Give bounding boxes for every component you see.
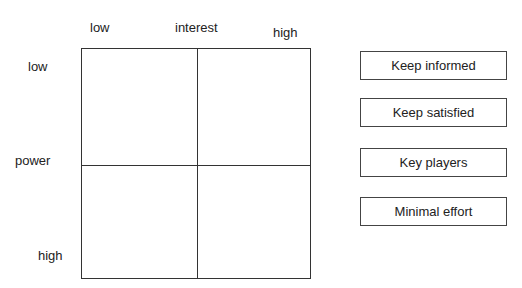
legend-minimal-effort: Minimal effort [360, 197, 507, 226]
grid-horizontal-divider [82, 165, 310, 166]
y-axis-high-label: high [38, 248, 63, 263]
legend-keep-satisfied: Keep satisfied [360, 98, 507, 127]
x-axis-high-label: high [273, 25, 298, 40]
power-interest-grid [81, 48, 311, 279]
x-axis-title: interest [175, 20, 218, 35]
y-axis-title: power [15, 153, 50, 168]
legend-key-players: Key players [360, 148, 507, 177]
y-axis-low-label: low [28, 59, 48, 74]
grid-vertical-divider [197, 49, 198, 278]
legend-keep-informed: Keep informed [360, 51, 507, 80]
x-axis-low-label: low [90, 20, 110, 35]
